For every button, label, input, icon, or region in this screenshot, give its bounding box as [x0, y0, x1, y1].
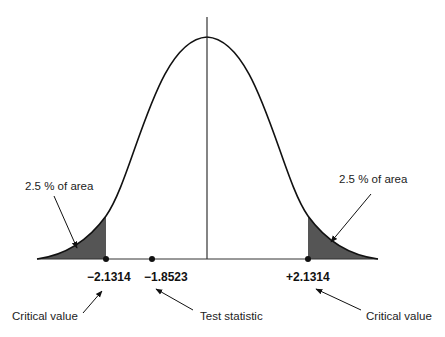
test-statistic-value: −1.8523 — [144, 270, 188, 284]
left-tail-label: 2.5 % of area — [25, 180, 94, 192]
left-critical-callout: Critical value — [12, 310, 78, 322]
test-statistic-callout: Test statistic — [200, 310, 263, 322]
right-critical-arrow — [316, 289, 361, 310]
left-critical-value: −2.1314 — [87, 270, 131, 284]
left-tail-region — [37, 216, 106, 259]
right-tail-arrow — [331, 194, 371, 242]
test-statistic-arrow — [156, 289, 193, 310]
t-distribution-diagram: 2.5 % of area 2.5 % of area −2.1314 −1.8… — [0, 0, 445, 337]
right-tail-region — [308, 216, 378, 259]
right-critical-point — [305, 256, 311, 262]
right-critical-value: +2.1314 — [286, 270, 330, 284]
test-statistic-point — [149, 256, 155, 262]
left-tail-arrow — [54, 196, 77, 248]
left-critical-arrow — [83, 291, 102, 313]
right-critical-callout: Critical value — [366, 310, 432, 322]
right-tail-label: 2.5 % of area — [339, 173, 408, 185]
left-critical-point — [103, 256, 109, 262]
